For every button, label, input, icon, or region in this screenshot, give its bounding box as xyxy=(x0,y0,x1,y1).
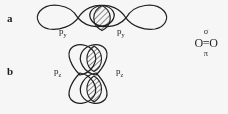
orbital-label-a-right-subscript: y xyxy=(122,31,125,38)
orbital-label-a-left: py xyxy=(59,27,67,38)
orbital-label-a-right: py xyxy=(117,27,125,38)
orbital-label-b-left: pz xyxy=(54,67,61,78)
oxygen-double-bond-label: O=O xyxy=(186,37,226,49)
pi-symbol-label: π xyxy=(186,49,226,58)
orbital-overlap-diagram xyxy=(0,0,228,114)
pi-overlap-hatch-region-bottom xyxy=(80,72,110,106)
sigma-symbol-label: σ xyxy=(186,27,226,36)
pi-overlap-hatch-region-top xyxy=(80,42,110,76)
panel-letter-b: b xyxy=(7,66,13,77)
panel-letter-a: a xyxy=(7,13,13,24)
orbital-label-b-right-subscript: z xyxy=(121,71,124,78)
orbital-label-b-left-subscript: z xyxy=(59,71,62,78)
panel-a-sigma-overlap xyxy=(37,2,166,36)
panel-b-pi-overlap xyxy=(69,42,110,106)
oxygen-bond-formula: σ O=O π xyxy=(186,27,226,57)
orbital-label-a-left-subscript: y xyxy=(64,31,67,38)
orbital-label-b-right: pz xyxy=(116,67,123,78)
